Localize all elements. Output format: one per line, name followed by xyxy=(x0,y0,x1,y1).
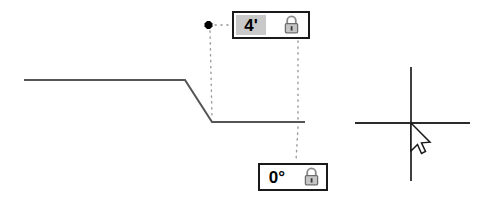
vertical-guide-right-lower xyxy=(296,127,298,161)
arrow-pointer-icon xyxy=(411,123,430,154)
vertical-guide-left xyxy=(210,31,212,118)
lock-length-toggle[interactable] xyxy=(276,15,306,35)
angle-dimension-box[interactable]: 0° xyxy=(258,163,328,191)
drawing-canvas[interactable]: 4' 0° xyxy=(0,0,489,206)
angle-dimension-field[interactable]: 0° xyxy=(262,167,292,187)
snap-point-marker[interactable] xyxy=(205,21,213,29)
length-dimension-field[interactable]: 4' xyxy=(236,15,266,35)
lock-closed-icon xyxy=(283,15,300,35)
lock-closed-icon xyxy=(303,167,320,187)
lock-angle-toggle[interactable] xyxy=(298,167,324,187)
drawn-polyline[interactable] xyxy=(24,80,305,122)
length-dimension-box[interactable]: 4' xyxy=(232,11,310,39)
